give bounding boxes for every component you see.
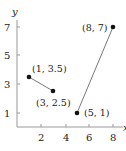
y-axis-label: y [11, 6, 18, 17]
x-tick-label-8: 8 [110, 132, 116, 143]
point-label-1-3.5: (1, 3.5) [32, 63, 67, 74]
point-8-7 [111, 25, 116, 30]
y-tick-label-3: 3 [4, 79, 10, 90]
x-axis-label: x [123, 122, 126, 133]
point-3-2.5 [51, 89, 56, 94]
point-1-3.5 [27, 75, 32, 80]
segment-2 [77, 27, 113, 113]
x-tick-label-2: 2 [38, 132, 44, 143]
chart: y x 7 5 3 1 2 4 6 8 (1, 3.5) (3, 2.5) (5… [0, 0, 126, 151]
x-tick-label-4: 4 [63, 132, 69, 143]
y-tick-label-5: 5 [4, 50, 10, 61]
y-tick-label-7: 7 [4, 22, 10, 33]
segment-1 [29, 77, 53, 91]
y-tick-label-1: 1 [4, 108, 10, 119]
point-5-1 [75, 111, 80, 116]
x-tick-label-6: 6 [86, 132, 92, 143]
point-label-8-7: (8, 7) [82, 22, 108, 33]
point-label-5-1: (5, 1) [84, 107, 110, 118]
point-label-3-2.5: (3, 2.5) [36, 97, 71, 108]
